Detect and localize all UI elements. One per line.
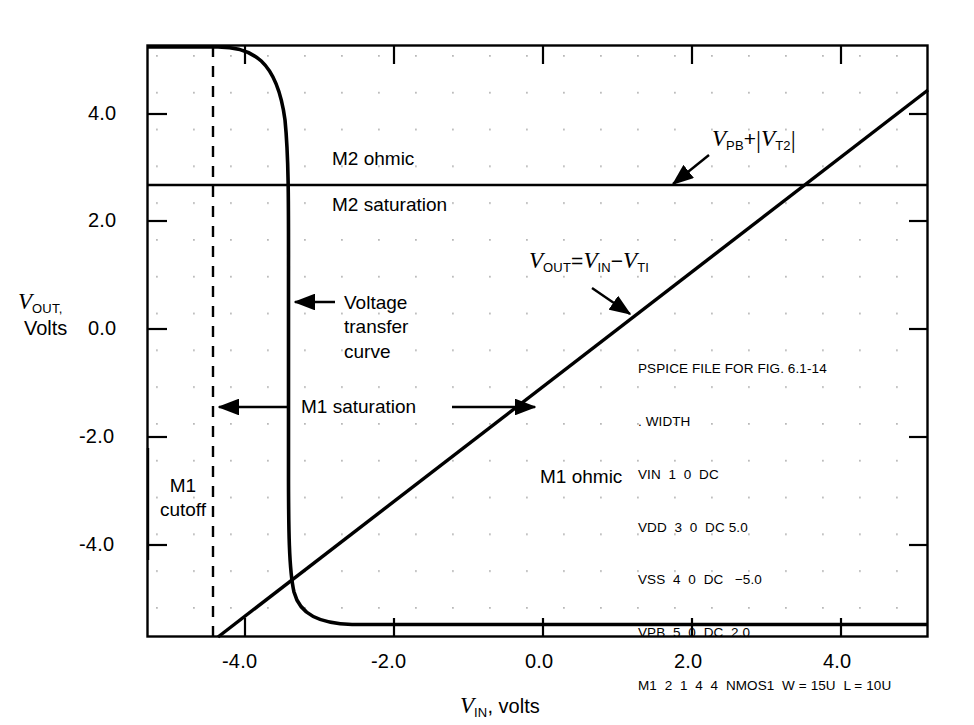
vpb-v-symbol: V [712, 126, 726, 151]
vout-eq-sub2: IN [597, 260, 610, 275]
annotation-vpb-vt2: VPB+|VT2| [712, 125, 796, 155]
vout-eq-v1: V [529, 248, 543, 273]
annotation-m1-cutoff: M1 cutoff [157, 474, 209, 523]
netlist-line-6: M1 2 1 4 4 NMOS1 W = 15U L = 10U [638, 677, 938, 695]
vout-eq-equals: = [571, 249, 583, 272]
netlist-line-2: VIN 1 0 DC [638, 466, 938, 484]
annotation-m1-saturation: M1 saturation [301, 396, 416, 418]
y-tick-label-neg4: -4.0 [79, 533, 114, 557]
y-axis-label: VOUT, [18, 288, 62, 316]
x-axis-label: VIN, volts [460, 692, 540, 720]
y-axis-label-volts: Volts [24, 317, 67, 341]
x-axis-label-units: , volts [487, 695, 539, 717]
y-tick-label-2: 2.0 [88, 209, 116, 233]
vout-eq-v2: V [583, 248, 597, 273]
vtc-line-1: Voltage [344, 291, 408, 315]
vt2-subscript: T2 [775, 138, 791, 153]
annotation-m1-ohmic: M1 ohmic [540, 466, 622, 488]
netlist-line-1: . WIDTH [638, 413, 938, 431]
y-tick-label-neg2: -2.0 [79, 425, 114, 449]
netlist-line-4: VSS 4 0 DC −5.0 [638, 571, 938, 589]
figure-container: 4.0 2.0 0.0 -2.0 -4.0 VOUT, Volts -4.0 -… [0, 0, 974, 725]
vout-eq-sub1: OUT [543, 260, 571, 275]
vout-eq-sub3: TI [637, 260, 649, 275]
vpb-plus-sign: + [744, 127, 756, 150]
vtc-line-2: transfer [344, 315, 408, 339]
x-tick-label-0: 0.0 [525, 650, 553, 674]
annotation-voltage-transfer-curve: Voltage transfer curve [344, 291, 408, 364]
x-tick-label-neg2: -2.0 [371, 650, 406, 674]
y-tick-label-0: 0.0 [88, 317, 116, 341]
abs-bar-right: | [791, 125, 796, 155]
netlist-line-5: VPB 5 0 DC 2.0 [638, 624, 938, 642]
annotation-vout-equation: VOUT=VIN−VTI [529, 247, 649, 275]
x-tick-label-neg4: -4.0 [222, 650, 257, 674]
annotation-m2-saturation: M2 saturation [332, 194, 447, 216]
vt2-v-symbol: V [761, 126, 775, 151]
y-axis-label-v: VOUT, [18, 291, 62, 313]
netlist-line-3: VDD 3 0 DC 5.0 [638, 519, 938, 537]
m1-cutoff-line-1: M1 [157, 474, 209, 498]
vtc-line-3: curve [344, 340, 408, 364]
pspice-netlist-block: PSPICE FILE FOR FIG. 6.1-14 . WIDTH VIN … [638, 325, 938, 725]
vout-eq-v3: V [623, 248, 637, 273]
netlist-line-0: PSPICE FILE FOR FIG. 6.1-14 [638, 360, 938, 378]
x-axis-label-sub: IN [474, 705, 487, 720]
vpb-subscript: PB [726, 138, 744, 153]
vout-eq-minus: − [611, 249, 623, 272]
y-tick-label-4: 4.0 [88, 102, 116, 126]
annotation-m2-ohmic: M2 ohmic [332, 148, 414, 170]
m1-cutoff-line-2: cutoff [157, 498, 209, 522]
x-axis-label-v: V [460, 693, 474, 718]
